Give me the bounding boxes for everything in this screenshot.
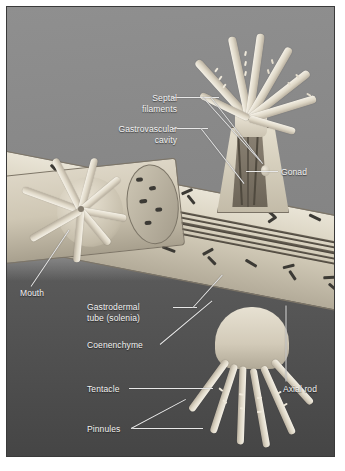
label-tentacle: Tentacle: [87, 384, 141, 395]
pinnule: [271, 59, 274, 64]
figure-frame: Septal filaments Gastrovascular cavity G…: [6, 6, 335, 457]
pinnule: [244, 61, 247, 66]
label-gastrovascular-cavity: Gastrovascular cavity: [73, 124, 177, 145]
pinnule: [244, 71, 247, 76]
mouth-opening: [78, 206, 84, 212]
leader-pinnules: [131, 428, 203, 429]
label-gonad: Gonad: [281, 167, 335, 178]
label-coenenchyme: Coenenchyme: [87, 340, 169, 351]
pinnule: [214, 67, 219, 72]
label-axial-rod: Axial rod: [283, 384, 335, 395]
pinnule: [257, 397, 262, 399]
pinnule: [267, 69, 270, 74]
leader-axial-rod: [286, 306, 287, 382]
pinnule: [218, 75, 223, 80]
label-mouth: Mouth: [20, 288, 72, 299]
leader-tentacle: [129, 388, 213, 389]
upper-right-polyp: [183, 29, 335, 219]
lower-polyp: [193, 307, 323, 457]
tentacle: [237, 366, 247, 444]
leader-gonad: [246, 171, 278, 172]
pinnule: [283, 403, 288, 407]
pinnule: [244, 51, 247, 56]
label-pinnules: Pinnules: [87, 424, 141, 435]
label-septal-filaments: Septal filaments: [95, 93, 177, 114]
figure-root: Septal filaments Gastrovascular cavity G…: [0, 0, 345, 471]
label-gastrodermal-tube: Gastrodermal tube (solenia): [87, 302, 181, 323]
pinnule: [257, 411, 262, 413]
